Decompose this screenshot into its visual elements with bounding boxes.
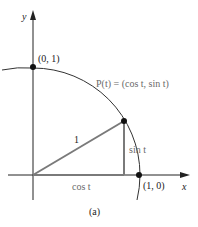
sin-label: sin t [129, 144, 146, 155]
x-axis-label: x [181, 181, 187, 192]
hypotenuse-line [33, 121, 124, 175]
point-0-1-label: (0, 1) [38, 53, 60, 65]
unit-circle-diagram: y x (0, 1) (1, 0) P(t) = (cos t, sin t) … [0, 0, 198, 227]
x-axis-arrow-icon [180, 172, 190, 178]
point-1-0-label: (1, 0) [143, 180, 165, 192]
hypotenuse-label: 1 [74, 134, 79, 145]
cos-label: cos t [72, 181, 91, 192]
y-axis-label: y [21, 11, 27, 22]
y-axis-arrow-icon [30, 10, 36, 20]
point-p-label: P(t) = (cos t, sin t) [96, 78, 169, 90]
figure-caption: (a) [89, 206, 100, 218]
point-1-0 [136, 172, 142, 178]
point-p [121, 118, 127, 124]
point-0-1 [30, 64, 36, 70]
